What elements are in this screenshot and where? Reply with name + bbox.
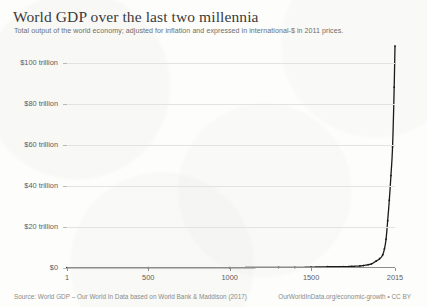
- data-point-marker: [384, 248, 386, 250]
- x-axis-label: 500: [142, 273, 154, 282]
- y-axis-label: $20 trillion: [24, 222, 58, 231]
- y-axis-label: $100 trillion: [20, 58, 58, 67]
- x-axis-tick: [395, 268, 396, 271]
- y-axis-tick: [63, 145, 67, 146]
- x-axis-tick: [230, 268, 231, 271]
- x-axis-tick: [311, 268, 312, 271]
- data-point-marker: [382, 254, 384, 256]
- chart-page: World GDP over the last two millennia To…: [0, 0, 427, 307]
- page-title: World GDP over the last two millennia: [13, 8, 259, 26]
- x-axis-tick: [148, 268, 149, 271]
- y-axis-tick: [63, 227, 67, 228]
- y-gridline: [67, 63, 395, 64]
- y-axis-label: $80 trillion: [24, 99, 58, 108]
- plot-area: $0$20 trillion$40 trillion$60 trillion$8…: [67, 42, 395, 268]
- data-point-marker: [385, 238, 387, 240]
- data-point-marker: [390, 175, 392, 177]
- x-axis-tick: [67, 268, 68, 271]
- y-axis-tick: [63, 104, 67, 105]
- y-gridline: [67, 145, 395, 146]
- x-axis-label: 1: [65, 273, 69, 282]
- y-gridline: [67, 227, 395, 228]
- data-point-marker: [367, 264, 369, 266]
- y-axis-label: $0: [50, 263, 58, 272]
- source-note: Source: World GDP – Our World In Data ba…: [14, 293, 247, 300]
- data-point-marker: [392, 146, 394, 148]
- x-axis-label: 2015: [387, 273, 403, 282]
- data-point-marker: [388, 199, 390, 201]
- x-axis-label: 1500: [303, 273, 319, 282]
- data-point-marker: [379, 258, 381, 260]
- y-gridline: [67, 104, 395, 105]
- credit-note[interactable]: OurWorldInData.org/economic-growth • CC …: [278, 293, 411, 300]
- y-axis-tick: [63, 63, 67, 64]
- gdp-line-path: [67, 46, 395, 268]
- x-axis-label: 1000: [221, 273, 237, 282]
- page-subtitle: Total output of the world economy; adjus…: [14, 27, 343, 35]
- data-point-marker: [394, 45, 396, 47]
- y-axis-tick: [63, 186, 67, 187]
- y-axis-label: $60 trillion: [24, 140, 58, 149]
- x-axis-line: [67, 267, 395, 268]
- data-point-marker: [393, 86, 395, 88]
- data-point-marker: [370, 263, 372, 265]
- data-point-marker: [387, 220, 389, 222]
- y-gridline: [67, 186, 395, 187]
- gdp-line-series: [67, 42, 395, 268]
- data-point-marker: [375, 260, 377, 262]
- y-axis-label: $40 trillion: [24, 181, 58, 190]
